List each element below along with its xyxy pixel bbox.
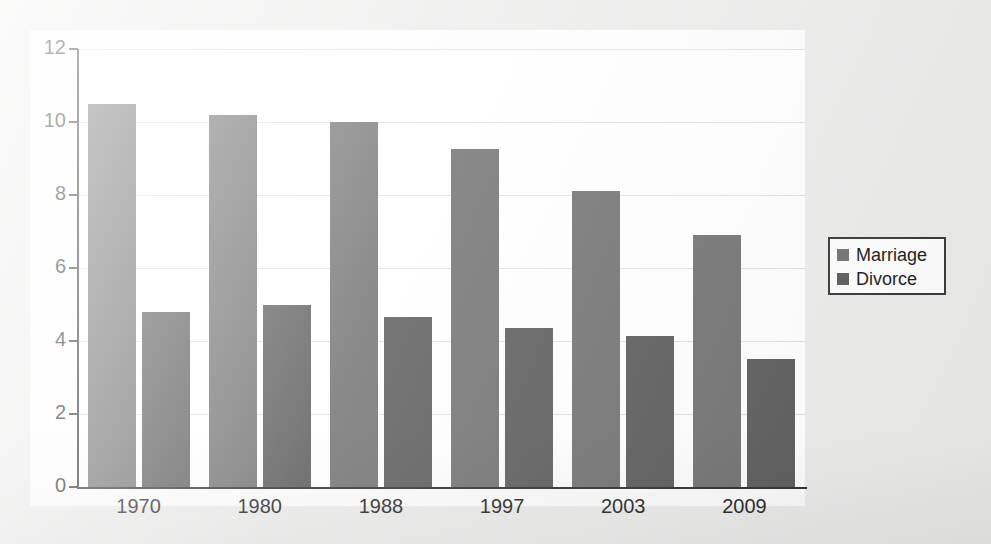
bar-marriage-1988: [330, 122, 378, 487]
bar-marriage-1970: [88, 104, 136, 487]
bars-layer: [78, 49, 805, 487]
y-axis-tick-label: 4: [32, 328, 66, 351]
x-axis-tick-label: 1980: [199, 495, 320, 518]
legend-label-marriage: Marriage: [856, 246, 927, 264]
y-axis-tick: [69, 267, 78, 269]
bar-divorce-2003: [626, 336, 674, 487]
legend-entry-divorce: Divorce: [837, 267, 944, 291]
bar-divorce-1997: [505, 328, 553, 487]
bar-divorce-1970: [142, 312, 190, 487]
scanned-page: in the number of marriages of couples ch…: [0, 0, 991, 544]
x-axis-tick-label: 2009: [684, 495, 805, 518]
bar-chart-figure: 024681012 197019801988199720032009 Marri…: [0, 0, 991, 544]
y-axis-tick: [69, 194, 78, 196]
y-axis-tick: [69, 340, 78, 342]
y-axis-tick-label: 12: [32, 36, 66, 59]
y-axis-tick-label: 0: [32, 474, 66, 497]
y-axis-tick-labels: 024681012: [22, 0, 66, 544]
y-axis-tick-label: 10: [32, 109, 66, 132]
x-axis-tick-label: 1997: [442, 495, 563, 518]
y-axis-tick-label: 8: [32, 182, 66, 205]
y-axis-tick: [69, 121, 78, 123]
y-axis-tick-label: 6: [32, 255, 66, 278]
x-axis-tick-label: 2003: [563, 495, 684, 518]
y-axis-tick: [69, 48, 78, 50]
x-axis-line: [77, 487, 807, 489]
bar-divorce-2009: [747, 359, 795, 487]
bar-marriage-1997: [451, 149, 499, 487]
chart-legend: Marriage Divorce: [828, 237, 946, 295]
legend-label-divorce: Divorce: [856, 270, 917, 288]
x-axis-tick-label: 1988: [320, 495, 441, 518]
divorce-swatch-icon: [837, 273, 849, 285]
y-axis-tick: [69, 413, 78, 415]
bar-marriage-2003: [572, 191, 620, 487]
bar-marriage-1980: [209, 115, 257, 487]
bar-divorce-1980: [263, 305, 311, 488]
x-axis-tick-labels: 197019801988199720032009: [78, 495, 805, 525]
marriage-swatch-icon: [837, 249, 849, 261]
y-axis-tick-label: 2: [32, 401, 66, 424]
bar-divorce-1988: [384, 317, 432, 487]
bar-marriage-2009: [693, 235, 741, 487]
x-axis-tick-label: 1970: [78, 495, 199, 518]
legend-entry-marriage: Marriage: [837, 243, 944, 267]
y-axis-tick: [69, 486, 78, 488]
